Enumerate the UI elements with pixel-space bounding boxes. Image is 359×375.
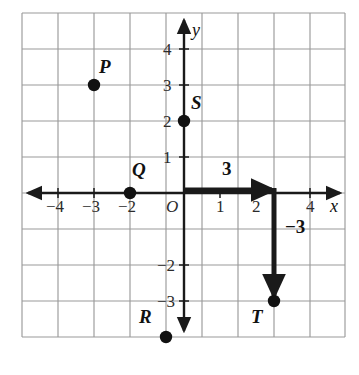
- point-label-Q: Q: [132, 160, 146, 179]
- y-tick-label-neg3: −3: [157, 293, 175, 310]
- x-axis-label: x: [330, 197, 338, 215]
- x-tick-label-neg4: −4: [46, 198, 64, 215]
- point-label-P: P: [99, 57, 111, 76]
- vector-label-rise: −3: [285, 217, 305, 236]
- y-tick-label-neg2: −2: [157, 257, 175, 274]
- point-T: [268, 295, 280, 307]
- x-tick-label-2: 2: [252, 198, 261, 215]
- plot-canvas: [0, 0, 359, 375]
- point-P: [88, 79, 100, 91]
- x-tick-label-neg2: −2: [118, 198, 136, 215]
- x-tick-label-4: 4: [306, 198, 315, 215]
- x-tick-label-1: 1: [216, 198, 225, 215]
- y-tick-label-2: 2: [163, 113, 172, 130]
- axes: [28, 20, 340, 331]
- x-tick-label-neg3: −3: [82, 198, 100, 215]
- point-R: [160, 331, 172, 343]
- y-tick-label-1: 1: [163, 149, 172, 166]
- coordinate-plane-figure: −4 −3 −2 1 2 4 4 3 2 1 −2 −3 O x y P Q R…: [0, 0, 359, 375]
- point-label-R: R: [139, 307, 152, 326]
- point-S: [178, 115, 190, 127]
- y-tick-label-3: 3: [163, 77, 172, 94]
- origin-label: O: [166, 198, 178, 215]
- point-label-S: S: [191, 93, 202, 112]
- y-axis-label: y: [192, 21, 200, 39]
- point-label-T: T: [251, 307, 263, 326]
- y-tick-label-4: 4: [163, 41, 172, 58]
- vector-label-run: 3: [222, 159, 232, 178]
